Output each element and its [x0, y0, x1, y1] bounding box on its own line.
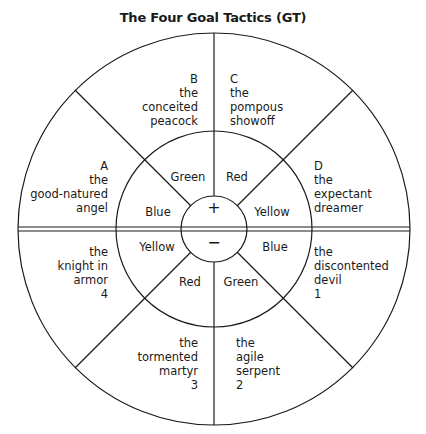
type-d-line: dreamer: [314, 201, 394, 215]
upper-color-upper-right: Red: [219, 170, 255, 184]
type-3-tormented-martyr: the tormented martyr 3: [128, 336, 198, 392]
type-4-knight-in-armor: the knight in armor 4: [38, 245, 108, 301]
type-a-line: angel: [28, 201, 108, 215]
upper-color-left: Blue: [138, 205, 178, 219]
lower-color-lower-left: Red: [174, 275, 206, 289]
type-c-line: the: [230, 86, 300, 100]
type-b-line: the: [128, 86, 198, 100]
plus-sign: +: [206, 201, 222, 215]
type-3-line: tormented: [128, 350, 198, 364]
type-1-line: discontented: [314, 259, 404, 273]
type-a-good-natured-angel: A the good-natured angel: [28, 159, 108, 215]
type-1-line: the: [314, 245, 404, 259]
type-c-line: C: [230, 72, 300, 86]
type-1-discontented-devil: the discontented devil 1: [314, 245, 404, 301]
type-d-line: D: [314, 159, 394, 173]
type-2-agile-serpent: the agile serpent 2: [236, 336, 306, 392]
type-b-line: conceited: [128, 100, 198, 114]
type-b-line: peacock: [128, 114, 198, 128]
type-2-line: 2: [236, 378, 306, 392]
type-4-line: armor: [38, 273, 108, 287]
type-4-line: the: [38, 245, 108, 259]
minus-sign: −: [206, 236, 222, 250]
type-d-line: the: [314, 173, 394, 187]
type-a-line: the: [28, 173, 108, 187]
goal-tactics-wheel: [0, 0, 426, 434]
type-3-line: 3: [128, 378, 198, 392]
lower-color-right: Blue: [257, 240, 293, 254]
type-b-conceited-peacock: B the conceited peacock: [128, 72, 198, 128]
type-3-line: the: [128, 336, 198, 350]
type-d-expectant-dreamer: D the expectant dreamer: [314, 159, 394, 215]
upper-color-right: Yellow: [249, 205, 295, 219]
type-1-line: devil: [314, 273, 404, 287]
type-c-line: pompous: [230, 100, 300, 114]
type-4-line: knight in: [38, 259, 108, 273]
type-2-line: agile: [236, 350, 306, 364]
lower-color-lower-right: Green: [219, 275, 263, 289]
type-3-line: martyr: [128, 364, 198, 378]
upper-color-upper-left: Green: [166, 170, 210, 184]
type-a-line: good-natured: [28, 187, 108, 201]
type-2-line: serpent: [236, 364, 306, 378]
type-a-line: A: [28, 159, 108, 173]
type-2-line: the: [236, 336, 306, 350]
type-1-line: 1: [314, 287, 404, 301]
lower-color-left: Yellow: [134, 240, 180, 254]
type-d-line: expectant: [314, 187, 394, 201]
type-4-line: 4: [38, 287, 108, 301]
type-c-pompous-showoff: C the pompous showoff: [230, 72, 300, 128]
type-c-line: showoff: [230, 114, 300, 128]
type-b-line: B: [128, 72, 198, 86]
